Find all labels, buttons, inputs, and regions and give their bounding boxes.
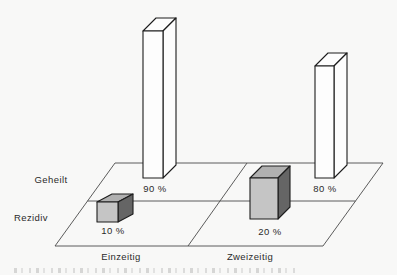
chart: Geheilt Rezidiv 90 % 10 % 80 % 20 % Einz…	[0, 0, 397, 275]
value-label-geheilt-einzeitig: 90 %	[143, 183, 166, 194]
bar-rezidiv-einzeitig	[97, 194, 133, 222]
bar-rezidiv-einzeitig-front-face	[97, 202, 118, 222]
value-label-geheilt-zweizeitig: 80 %	[313, 183, 336, 194]
value-label-rezidiv-zweizeitig: 20 %	[258, 226, 281, 237]
bar-rezidiv-zweizeitig-front-face	[250, 178, 278, 219]
category-label-einzeitig: Einzeitig	[101, 251, 141, 262]
bar-rezidiv-zweizeitig	[250, 166, 290, 219]
bar-geheilt-zweizeitig-side-face	[334, 53, 347, 178]
bar-geheilt-einzeitig-front-face	[143, 31, 163, 178]
bar-geheilt-einzeitig-side-face	[163, 18, 176, 178]
bar-geheilt-einzeitig	[143, 18, 176, 178]
value-label-rezidiv-einzeitig: 10 %	[101, 225, 124, 236]
series-label-rezidiv: Rezidiv	[14, 212, 48, 223]
chart-canvas: Geheilt Rezidiv 90 % 10 % 80 % 20 % Einz…	[0, 0, 397, 275]
category-divider-line	[188, 163, 247, 246]
bar-geheilt-zweizeitig	[315, 53, 347, 178]
series-label-geheilt: Geheilt	[35, 174, 68, 185]
cropped-caption-artifact	[14, 268, 296, 273]
category-label-zweizeitig: Zweizeitig	[227, 251, 273, 262]
bar-geheilt-zweizeitig-front-face	[315, 66, 334, 178]
